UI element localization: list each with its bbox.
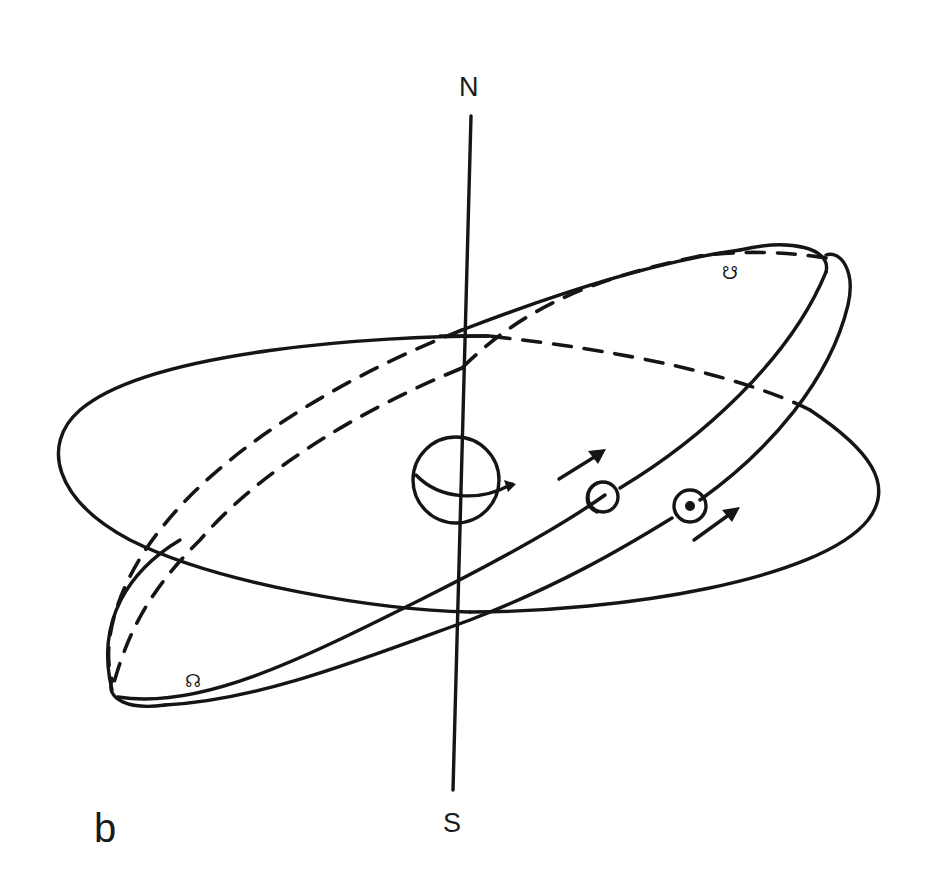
sun-orbit-ellipse (108, 252, 850, 705)
orbit-diagram: N S b ☋ ☊ (0, 0, 932, 883)
north-label: N (459, 74, 479, 101)
panel-label: b (94, 808, 116, 848)
moon-direction-arrow (559, 449, 606, 479)
descending-node-icon: ☋ (722, 264, 738, 282)
moon-orbit-ellipse (109, 245, 827, 706)
south-label: S (443, 810, 461, 837)
diagram-canvas (0, 0, 932, 883)
sun-symbol-icon (674, 490, 706, 522)
north-south-axis (453, 116, 471, 790)
ascending-node-icon: ☊ (185, 672, 201, 690)
sun-direction-arrow (694, 507, 740, 540)
globe-icon (413, 437, 516, 523)
